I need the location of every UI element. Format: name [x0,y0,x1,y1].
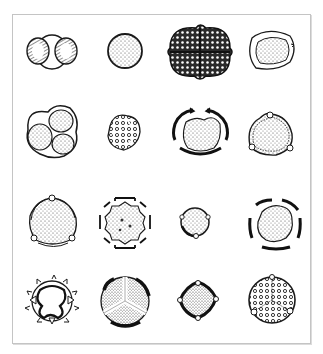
reticulate-triangular-grain [108,115,140,150]
triporate-grain [30,195,77,247]
trilete-spore [101,277,149,326]
small-triporate-grain [180,208,210,239]
pentacolpate-grain [250,200,301,249]
bisaccate-grain [27,35,77,69]
reticulate-periporate-grain [249,275,295,324]
triporate-annulate-grain [249,112,293,155]
echinate-tricolporate-grain [25,275,79,324]
thick-walled-monoporate-grain [250,31,294,69]
stephanocolpate-grain [100,198,150,248]
tetrad-reticulate-grain [168,25,232,79]
spherical-inaperturate-grain [108,34,142,68]
tetraporate-grain [178,281,219,321]
triad-tetrad-grain [27,106,77,158]
tricolpate-grain-thick-exine [174,108,228,154]
pollen-plate-illustration [0,0,323,354]
